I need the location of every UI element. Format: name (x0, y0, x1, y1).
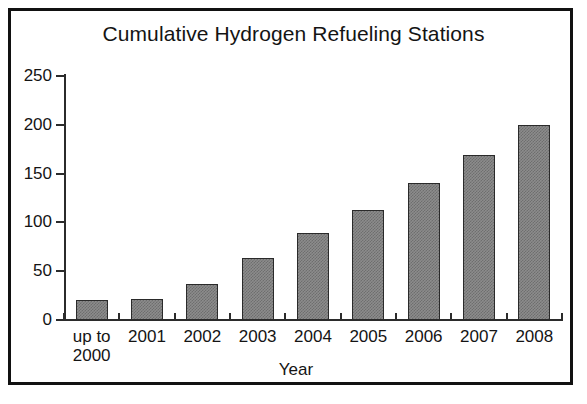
y-axis-tick-label: 0 (0, 311, 52, 328)
x-axis-tick-label: 2001 (119, 327, 174, 346)
x-axis-tick-label: 2006 (396, 327, 451, 346)
y-axis-tick-label: 250 (0, 67, 52, 84)
x-axis-tick (174, 313, 176, 321)
plot-area: 050100150200250 up to 200020012002200320… (0, 0, 587, 404)
bar (186, 284, 218, 320)
y-axis-tick (56, 221, 65, 223)
y-axis-line (64, 74, 66, 321)
y-axis-tick (56, 124, 65, 126)
bar (408, 183, 440, 320)
y-axis-tick (56, 173, 65, 175)
y-axis-tick-label: 150 (0, 165, 52, 182)
x-axis-tick-label: 2007 (451, 327, 506, 346)
x-axis-tick (118, 313, 120, 321)
x-axis-tick (561, 313, 563, 321)
x-axis-tick-label: 2008 (507, 327, 562, 346)
x-axis-tick (340, 313, 342, 321)
y-axis-tick (56, 270, 65, 272)
x-axis-tick (284, 313, 286, 321)
y-axis-tick-label: 200 (0, 116, 52, 133)
x-axis-tick (506, 313, 508, 321)
x-axis-title: Year (240, 360, 352, 380)
y-axis-tick-label: 100 (0, 213, 52, 230)
bar (352, 210, 384, 320)
bar (463, 155, 495, 320)
chart-figure: Cumulative Hydrogen Refueling Stations 0… (0, 0, 587, 404)
bar (76, 300, 108, 320)
x-axis-tick-label: 2004 (285, 327, 340, 346)
x-axis-tick-label: 2005 (341, 327, 396, 346)
bar (297, 233, 329, 320)
bar (242, 258, 274, 320)
x-axis-tick (229, 313, 231, 321)
x-axis-tick (63, 313, 65, 321)
y-axis-tick-label: 50 (0, 262, 52, 279)
y-axis-tick (56, 75, 65, 77)
x-axis-tick (450, 313, 452, 321)
x-axis-tick (395, 313, 397, 321)
bar (518, 125, 550, 320)
x-axis-tick-label: 2002 (175, 327, 230, 346)
x-axis-tick-label: up to 2000 (64, 327, 119, 365)
x-axis-tick-label: 2003 (230, 327, 285, 346)
bar (131, 299, 163, 320)
